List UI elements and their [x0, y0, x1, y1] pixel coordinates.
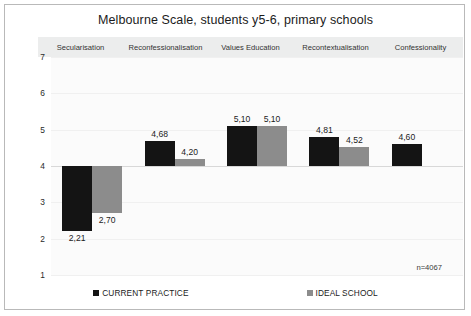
y-axis-tick-label: 6	[23, 88, 45, 98]
category-label: Values Education	[208, 37, 293, 57]
bar-value-label: 4,68	[151, 129, 168, 139]
bar-ideal-school[interactable]	[175, 159, 205, 166]
bar-value-label: 4,81	[316, 125, 333, 135]
bar-current-practice[interactable]	[62, 166, 92, 231]
gridline	[51, 57, 463, 58]
bar-current-practice[interactable]	[309, 137, 339, 166]
plot-area: 2,212,704,684,205,105,104,814,524,60	[51, 57, 463, 275]
legend-label: CURRENT PRACTICE	[102, 288, 188, 298]
bar-current-practice[interactable]	[392, 144, 422, 166]
legend-swatch-icon	[307, 290, 313, 296]
bar-ideal-school[interactable]	[257, 126, 287, 166]
category-header-band: SecularisationReconfessionalisationValue…	[38, 37, 463, 57]
gridline	[51, 275, 463, 276]
bar-value-label: 2,70	[99, 215, 116, 225]
bar-ideal-school[interactable]	[339, 147, 369, 166]
y-axis-tick-label: 3	[23, 197, 45, 207]
bar-value-label: 5,10	[234, 114, 251, 124]
legend-swatch-icon	[93, 290, 99, 296]
bar-value-label: 5,10	[264, 114, 281, 124]
y-axis-tick-label: 4	[23, 161, 45, 171]
sample-size-annotation: n=4067	[416, 263, 442, 272]
y-axis-tick-label: 7	[23, 52, 45, 62]
bar-value-label: 4,60	[398, 132, 415, 142]
y-axis-tick-label: 2	[23, 234, 45, 244]
chart-title: Melbourne Scale, students y5-6, primary …	[5, 13, 466, 27]
bar-value-label: 4,20	[181, 147, 198, 157]
category-label: Reconfessionalisation	[123, 37, 208, 57]
y-axis-tick-label: 5	[23, 125, 45, 135]
gridline	[51, 239, 463, 240]
bar-current-practice[interactable]	[145, 141, 175, 166]
category-label: Secularisation	[38, 37, 123, 57]
category-label: Recontextualisation	[293, 37, 378, 57]
chart-legend: CURRENT PRACTICEIDEAL SCHOOL	[5, 288, 466, 298]
bar-current-practice[interactable]	[227, 126, 257, 166]
category-label: Confessionality	[378, 37, 463, 57]
legend-item[interactable]: IDEAL SCHOOL	[307, 288, 378, 298]
bar-value-label: 2,21	[69, 233, 86, 243]
bar-ideal-school[interactable]	[92, 166, 122, 213]
gridline	[51, 93, 463, 94]
chart-frame: Melbourne Scale, students y5-6, primary …	[4, 4, 465, 310]
bar-value-label: 4,52	[346, 135, 363, 145]
legend-item[interactable]: CURRENT PRACTICE	[93, 288, 188, 298]
legend-label: IDEAL SCHOOL	[316, 288, 378, 298]
y-axis-tick-label: 1	[23, 270, 45, 280]
